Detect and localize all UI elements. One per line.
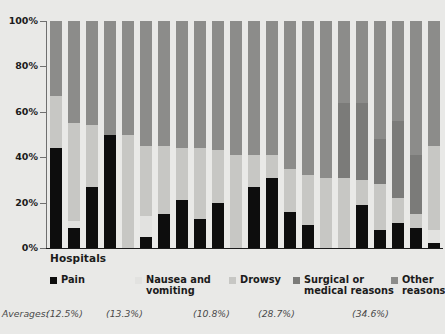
bar-stack[interactable] (425, 21, 443, 248)
y-axis-tick-label: 100% (2, 16, 38, 26)
bar-segment (320, 178, 333, 248)
bar-stack-inner (158, 21, 171, 248)
bar-segment (122, 21, 135, 135)
bar-segment (428, 230, 441, 244)
bar-segment (68, 123, 81, 221)
bar-segment (392, 21, 405, 121)
bar-segment (50, 96, 63, 148)
bar-stack-inner (194, 21, 207, 248)
bar-stack[interactable] (317, 21, 335, 248)
bar-stack[interactable] (47, 21, 65, 248)
bar-stack-inner (320, 21, 333, 248)
legend-item[interactable]: Surgical or medical reasons (293, 275, 394, 296)
bar-stack[interactable] (65, 21, 83, 248)
bar-segment (104, 135, 117, 249)
bar-segment (266, 155, 279, 178)
x-axis-title: Hospitals (50, 252, 106, 264)
bar-stack-inner (230, 21, 243, 248)
y-axis: 100%80%60%40%20%0% (0, 0, 47, 334)
bar-segment (158, 146, 171, 214)
bar-segment (284, 169, 297, 212)
bar-stack-inner (338, 21, 351, 248)
bar-stack[interactable] (281, 21, 299, 248)
legend-swatch-icon (229, 277, 236, 284)
bar-stack[interactable] (155, 21, 173, 248)
bar-stack[interactable] (119, 21, 137, 248)
bar-segment (86, 125, 99, 186)
bar-stack-inner (50, 21, 63, 248)
bars-container (47, 21, 443, 248)
bar-segment (410, 228, 423, 248)
bar-stack-inner (104, 21, 117, 248)
bar-stack[interactable] (263, 21, 281, 248)
bar-segment (50, 21, 63, 96)
bar-segment (248, 155, 261, 187)
bar-stack-inner (428, 21, 441, 248)
bar-stack-inner (266, 21, 279, 248)
bar-stack-inner (248, 21, 261, 248)
legend-item[interactable]: Other reasons (391, 275, 445, 296)
bar-segment (140, 216, 153, 236)
bar-segment (410, 214, 423, 228)
averages-caption: Averages: (2, 308, 49, 319)
bar-segment (194, 219, 207, 249)
bar-stack[interactable] (389, 21, 407, 248)
legend-item[interactable]: Pain (50, 275, 85, 286)
bar-segment (212, 150, 225, 202)
bar-stack[interactable] (353, 21, 371, 248)
bar-stack-inner (68, 21, 81, 248)
legend-item-label: Other reasons (402, 275, 445, 296)
bar-stack-inner (374, 21, 387, 248)
bar-segment (176, 148, 189, 200)
bar-segment (140, 146, 153, 216)
bar-stack-inner (356, 21, 369, 248)
plot-area (47, 21, 443, 248)
bar-segment (302, 175, 315, 225)
y-axis-tick-label: 80% (2, 61, 38, 71)
y-axis-tick-label: 60% (2, 107, 38, 117)
bar-stack[interactable] (371, 21, 389, 248)
bar-stack-inner (86, 21, 99, 248)
bar-segment (338, 103, 351, 178)
bar-stack[interactable] (335, 21, 353, 248)
bar-segment (266, 21, 279, 155)
bar-segment (230, 21, 243, 155)
y-axis-tick-label: 20% (2, 198, 38, 208)
bar-segment (392, 223, 405, 248)
bar-segment (302, 21, 315, 175)
y-axis-tick-label: 0% (2, 243, 38, 253)
bar-stack[interactable] (173, 21, 191, 248)
bar-segment (122, 135, 135, 249)
bar-segment (428, 146, 441, 230)
bar-segment (374, 21, 387, 139)
bar-stack-inner (284, 21, 297, 248)
bar-segment (356, 21, 369, 103)
bar-stack[interactable] (137, 21, 155, 248)
bar-stack[interactable] (299, 21, 317, 248)
bar-segment (212, 203, 225, 248)
bar-segment (374, 139, 387, 184)
bar-segment (212, 21, 225, 150)
legend-item[interactable]: Nausea and vomiting (135, 275, 211, 296)
bar-segment (284, 21, 297, 169)
bar-stack[interactable] (209, 21, 227, 248)
average-value: (13.3%) (106, 308, 143, 319)
bar-stack[interactable] (191, 21, 209, 248)
bar-segment (50, 148, 63, 248)
x-axis-line (46, 248, 443, 249)
bar-segment (68, 228, 81, 248)
bar-segment (284, 212, 297, 248)
legend-item-label: Pain (61, 275, 85, 286)
bar-stack[interactable] (83, 21, 101, 248)
bar-segment (194, 148, 207, 218)
bar-stack[interactable] (101, 21, 119, 248)
bar-segment (140, 237, 153, 248)
bar-segment (68, 21, 81, 123)
legend-item[interactable]: Drowsy (229, 275, 281, 286)
bar-stack[interactable] (227, 21, 245, 248)
bar-segment (356, 180, 369, 205)
bar-segment (230, 155, 243, 248)
bar-stack[interactable] (245, 21, 263, 248)
bar-stack[interactable] (407, 21, 425, 248)
legend-swatch-icon (293, 277, 300, 284)
